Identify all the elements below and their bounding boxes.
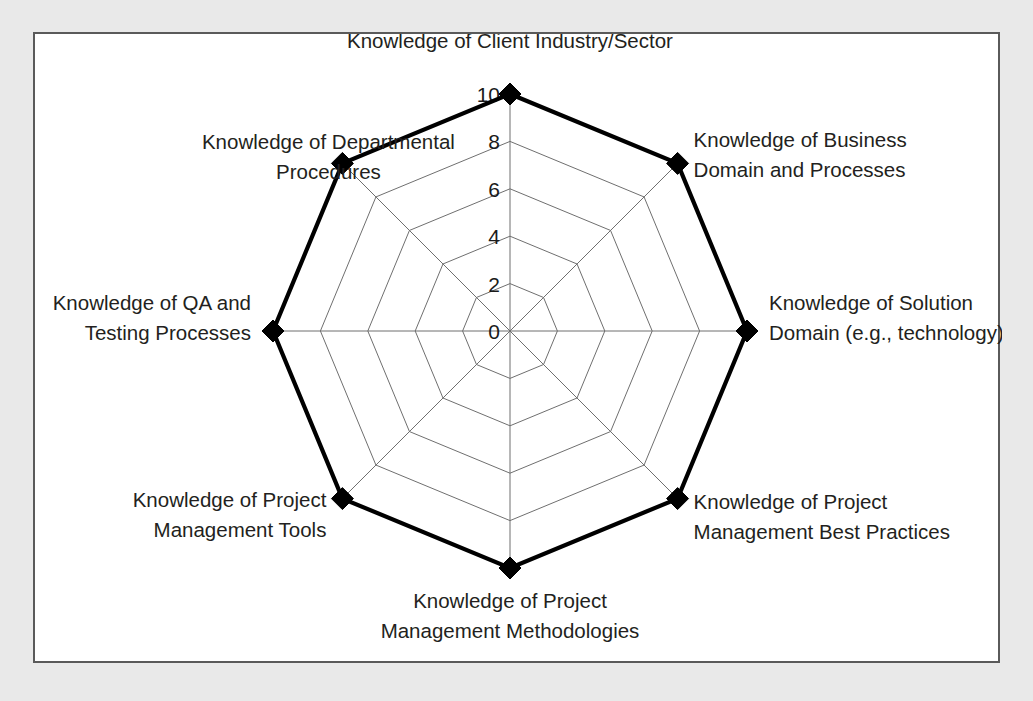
category-label: Knowledge of QA andTesting Processes [53,291,251,344]
category-label-line: Knowledge of Project [694,490,888,513]
data-point-marker [499,557,521,579]
category-label-line: Knowledge of Solution [769,291,973,314]
category-label-line: Management Best Practices [694,520,950,543]
chart-frame: 0246810 Knowledge of Client Industry/Sec… [33,32,1000,663]
category-label-line: Domain and Processes [694,158,906,181]
data-point-marker [499,83,521,105]
category-label-line: Knowledge of Departmental [202,130,455,153]
radial-tick-label: 2 [488,273,500,296]
category-axis-labels: Knowledge of Client Industry/SectorKnowl… [53,34,1002,642]
radial-tick-label: 6 [488,178,500,201]
category-label: Knowledge of ProjectManagement Methodolo… [381,589,640,642]
axis-spoke [510,331,678,499]
category-label-line: Domain (e.g., technology) [769,321,1002,344]
category-label: Knowledge of ProjectManagement Best Prac… [694,490,950,543]
axis-spoke [342,331,510,499]
radial-tick-label: 8 [488,130,500,153]
category-label: Knowledge of BusinessDomain and Processe… [694,128,907,181]
category-label: Knowledge of SolutionDomain (e.g., techn… [769,291,1002,344]
radar-chart-svg: 0246810 Knowledge of Client Industry/Sec… [35,34,1002,665]
axis-spoke [342,163,510,331]
category-label-line: Management Tools [154,518,327,541]
category-label: Knowledge of Client Industry/Sector [347,34,673,52]
axis-spoke [510,163,678,331]
category-label-line: Knowledge of Client Industry/Sector [347,34,673,52]
radial-axis-tick-labels: 0246810 [477,83,501,343]
data-point-marker [736,320,758,342]
screenshot-root: 0246810 Knowledge of Client Industry/Sec… [0,0,1033,701]
category-label-line: Knowledge of Project [413,589,607,612]
category-label: Knowledge of DepartmentalProcedures [202,130,455,183]
category-label-line: Procedures [276,160,381,183]
category-label-line: Knowledge of QA and [53,291,251,314]
category-label-line: Testing Processes [85,321,251,344]
radial-tick-label: 0 [488,320,500,343]
category-label-line: Knowledge of Project [133,488,327,511]
radar-chart: 0246810 Knowledge of Client Industry/Sec… [35,34,1002,665]
data-point-marker [262,320,284,342]
category-label-line: Management Methodologies [381,619,640,642]
radial-tick-label: 4 [488,225,500,248]
category-label-line: Knowledge of Business [694,128,907,151]
category-label: Knowledge of ProjectManagement Tools [133,488,327,541]
